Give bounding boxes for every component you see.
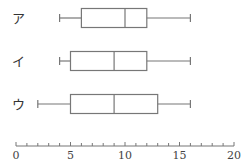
tick-label: 20 — [227, 149, 241, 162]
tick-label: 0 — [13, 149, 20, 162]
tick-label: 15 — [173, 149, 187, 162]
tick-label: 5 — [67, 149, 74, 162]
series-label: イ — [12, 54, 25, 69]
box-plot-chart: アイウ05101520 — [0, 0, 252, 162]
box-iqr — [71, 52, 147, 71]
tick-label: 10 — [118, 149, 132, 162]
box-iqr — [81, 9, 146, 28]
series-label: ア — [12, 11, 25, 26]
series-label: ウ — [12, 97, 25, 112]
